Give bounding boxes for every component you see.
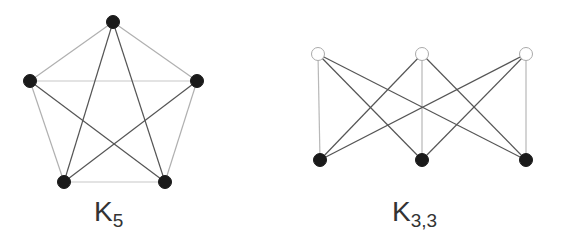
k33-vertex: [314, 154, 327, 167]
graph-canvas: [0, 0, 563, 239]
k33-vertex: [520, 48, 533, 61]
k33-edge: [318, 54, 320, 160]
k5-edge: [113, 22, 165, 182]
k5-edge: [64, 22, 113, 182]
k5-vertex: [107, 16, 120, 29]
k5-edge: [30, 81, 64, 182]
k33-label: K3,3: [392, 198, 437, 230]
k5-edge: [64, 81, 197, 182]
k5-vertex: [58, 176, 71, 189]
k5-graph: [24, 16, 204, 189]
k5-edge: [30, 22, 113, 81]
k33-label-main: K: [392, 196, 411, 227]
k33-graph: [312, 48, 533, 167]
k5-label-main: K: [94, 196, 113, 227]
k5-label-subscript: 5: [113, 210, 124, 231]
k5-edge: [30, 81, 165, 182]
k33-vertex: [416, 48, 429, 61]
k5-edge: [113, 22, 197, 81]
k5-vertex: [24, 75, 37, 88]
k5-vertex: [191, 75, 204, 88]
k5-label: K5: [94, 198, 123, 230]
k5-edge: [165, 81, 197, 182]
k33-vertex: [416, 154, 429, 167]
k33-label-subscript: 3,3: [411, 210, 437, 231]
k33-vertex: [520, 154, 533, 167]
k33-vertex: [312, 48, 325, 61]
k5-vertex: [159, 176, 172, 189]
